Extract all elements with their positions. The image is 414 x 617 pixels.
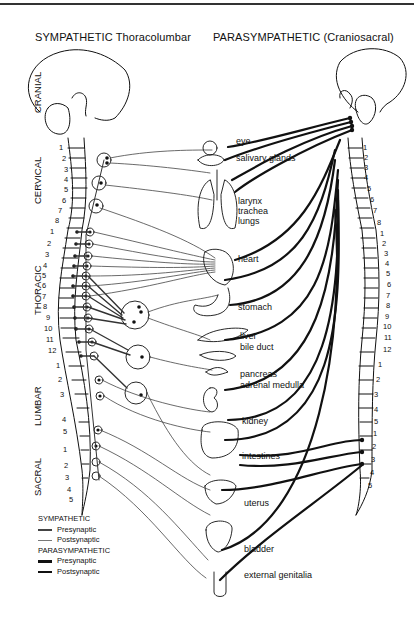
legend-para-postsynaptic: Postsynaptic [38, 567, 110, 578]
region-cranial: CRANIAL [32, 72, 43, 113]
kidney-icon [203, 388, 217, 412]
label-stomach: stomach [238, 302, 272, 313]
legend-sym-presynaptic: Presynaptic [38, 525, 110, 536]
line-swatch-icon [38, 529, 52, 531]
label-bladder: bladder [244, 544, 274, 555]
label-kidney: kidney [242, 416, 268, 427]
label-lungs: lungs [238, 216, 260, 227]
region-lumbar: LUMBAR [32, 386, 43, 426]
legend-para-presynaptic: Presynaptic [38, 556, 110, 567]
line-swatch-icon [38, 560, 52, 563]
line-swatch-icon [38, 540, 52, 541]
label-pancreas: pancreas [240, 369, 277, 380]
eye-icon [203, 141, 217, 155]
label-uterus: uterus [244, 498, 269, 509]
label-eye: eye [236, 136, 251, 147]
label-adrenal-medulla: adrenal medulla [240, 380, 304, 391]
uterus-icon [205, 480, 236, 504]
legend-sym-postsynaptic: Postsynaptic [38, 535, 110, 546]
label-heart: heart [238, 254, 259, 265]
legend-sympathetic-title: SYMPATHETIC [38, 514, 110, 525]
stomach-icon [194, 288, 230, 316]
label-external-genitalia: external genitalia [244, 570, 312, 581]
line-swatch-icon [38, 571, 52, 573]
right-brain-icon [336, 49, 406, 124]
lungs-icon [198, 170, 237, 229]
adrenal-icon [206, 368, 228, 376]
legend-parasympathetic-title: PARASYMPATHETIC [38, 546, 110, 557]
label-liver: liver [240, 331, 257, 342]
legend: SYMPATHETIC Presynaptic Postsynaptic PAR… [38, 514, 110, 577]
region-sacral: SACRAL [32, 458, 43, 496]
label-salivary-glands: salivary glands [236, 153, 296, 164]
salivary-gland-icon [198, 155, 224, 166]
left-brain-icon [28, 50, 129, 134]
region-cervical: CERVICAL [32, 157, 43, 204]
label-bile-duct: bile duct [240, 342, 274, 353]
label-intestines: intestines [242, 451, 280, 462]
pancreas-icon [200, 351, 236, 360]
